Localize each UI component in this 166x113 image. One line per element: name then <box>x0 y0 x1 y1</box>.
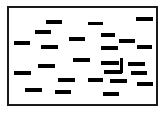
figure-root <box>0 0 166 113</box>
horizontal-dash-mark <box>104 70 122 74</box>
horizontal-dash-mark <box>137 45 152 49</box>
horizontal-dash-mark <box>55 90 71 94</box>
horizontal-dash-mark <box>88 78 103 82</box>
horizontal-dash-mark <box>46 20 62 24</box>
horizontal-dash-mark <box>128 62 145 66</box>
horizontal-dash-mark <box>101 61 119 65</box>
horizontal-dash-mark <box>137 82 153 86</box>
horizontal-dash-mark <box>14 41 30 45</box>
horizontal-dash-mark <box>38 64 55 68</box>
horizontal-dash-mark <box>41 45 58 49</box>
horizontal-dash-mark <box>119 39 135 43</box>
horizontal-dash-mark <box>103 92 119 96</box>
horizontal-dash-mark <box>136 17 153 21</box>
horizontal-dash-mark <box>58 78 75 82</box>
horizontal-dash-mark <box>73 58 90 62</box>
plot-frame <box>7 6 158 106</box>
horizontal-dash-mark <box>69 37 85 41</box>
horizontal-dash-mark <box>35 30 51 34</box>
horizontal-dash-mark <box>25 88 42 92</box>
horizontal-dash-mark <box>14 71 31 75</box>
horizontal-dash-mark <box>131 71 147 75</box>
horizontal-dash-mark <box>101 46 118 50</box>
horizontal-dash-mark <box>110 79 127 83</box>
horizontal-dash-mark <box>88 22 103 25</box>
horizontal-dash-mark <box>101 33 115 37</box>
